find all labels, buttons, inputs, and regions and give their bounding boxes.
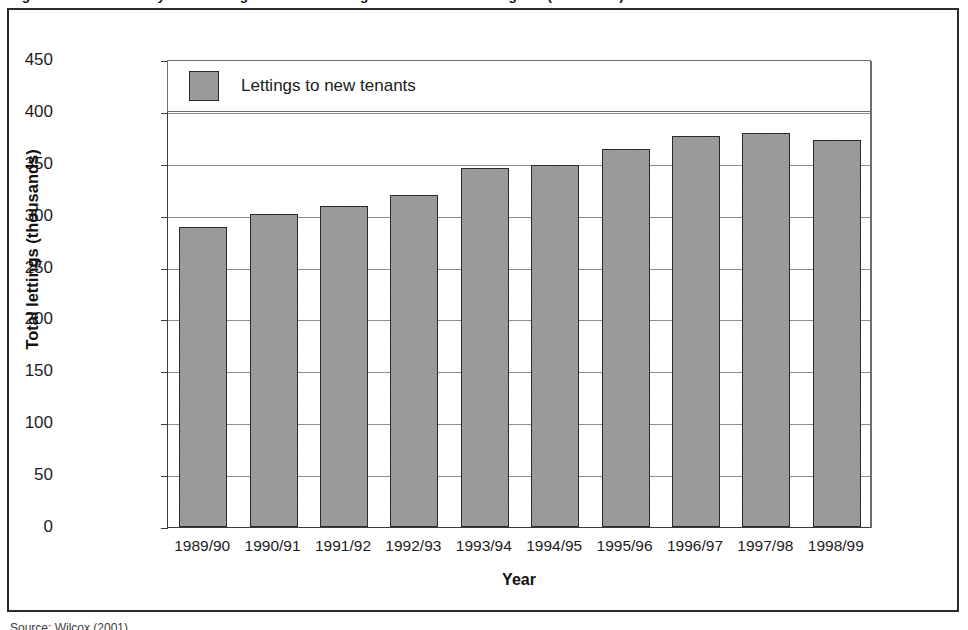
y-tick-350	[161, 165, 168, 166]
legend-swatch-lettings	[189, 71, 219, 101]
y-tick-400	[161, 113, 168, 114]
x-tick-label-1998-99: 1998/99	[801, 537, 871, 555]
x-tick-label-1994-95: 1994/95	[519, 537, 589, 555]
legend-label-lettings: Lettings to new tenants	[241, 76, 416, 96]
chart-frame: 050100150200250300350400450 Lettings to …	[7, 8, 959, 612]
plot-area: 050100150200250300350400450	[167, 61, 871, 528]
x-tick-label-1991-92: 1991/92	[308, 537, 378, 555]
x-axis-title: Year	[167, 571, 871, 589]
bar-1994-95	[531, 165, 579, 527]
x-tick-label-1995-96: 1995/96	[589, 537, 659, 555]
gridline-400	[168, 113, 872, 114]
bar-1993-94	[461, 168, 509, 527]
bar-1995-96	[602, 149, 650, 527]
bar-1989-90	[179, 227, 227, 527]
bar-1998-99	[813, 140, 861, 527]
x-tick-label-1996-97: 1996/97	[660, 537, 730, 555]
y-tick-label-100: 100	[7, 413, 53, 433]
bar-1996-97	[672, 136, 720, 527]
plot-right-border	[870, 61, 872, 528]
bar-1990-91	[250, 214, 298, 527]
y-tick-label-0: 0	[7, 517, 53, 537]
y-tick-label-450: 450	[7, 50, 53, 70]
y-tick-300	[161, 217, 168, 218]
y-axis-title: Total lettings (thousands)	[23, 85, 42, 415]
y-tick-150	[161, 372, 168, 373]
x-tick-label-1992-93: 1992/93	[378, 537, 448, 555]
bar-1997-98	[742, 133, 790, 527]
x-tick-label-1989-90: 1989/90	[167, 537, 237, 555]
y-tick-100	[161, 424, 168, 425]
x-tick-label-1993-94: 1993/94	[449, 537, 519, 555]
bar-1992-93	[390, 195, 438, 527]
y-tick-0	[161, 528, 168, 529]
y-tick-50	[161, 476, 168, 477]
x-tick-label-1997-98: 1997/98	[730, 537, 800, 555]
bar-1991-92	[320, 206, 368, 527]
y-tick-label-50: 50	[7, 465, 53, 485]
y-tick-250	[161, 269, 168, 270]
chart-legend: Lettings to new tenants	[167, 60, 871, 112]
x-tick-label-1990-91: 1990/91	[237, 537, 307, 555]
y-tick-200	[161, 320, 168, 321]
source-note: Source: Wilcox (2001)	[10, 621, 510, 630]
figure-title: Figure 1: Local authority and housing as…	[10, 0, 960, 4]
